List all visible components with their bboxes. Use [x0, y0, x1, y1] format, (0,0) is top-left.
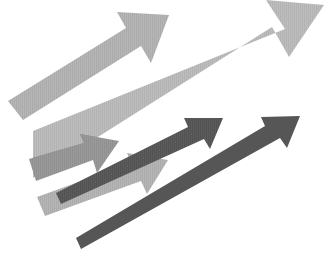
graphic-canvas [0, 0, 335, 253]
arrow-cluster-svg [0, 0, 335, 253]
